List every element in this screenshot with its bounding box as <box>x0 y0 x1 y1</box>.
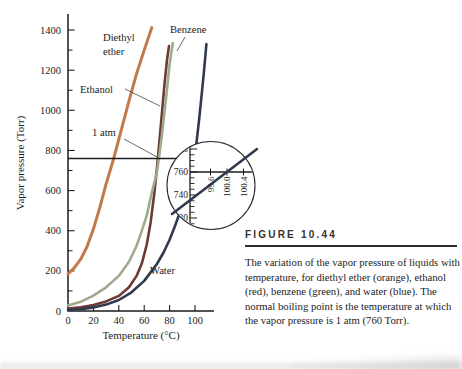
inset-x-tick-label: 100.4 <box>239 176 249 197</box>
inset-x-tick-label: 100.0 <box>222 176 232 197</box>
one-atm-leader-line <box>124 139 157 157</box>
x-axis-title: Temperature (°C) <box>102 329 180 342</box>
x-tick-label: 60 <box>139 315 150 326</box>
x-tick-label: 40 <box>114 315 125 326</box>
label-ethanol: Ethanol <box>80 84 113 95</box>
y-tick-label: 200 <box>45 265 61 276</box>
label-benzene-leader-line <box>177 37 185 51</box>
y-axis-title: Vapor pressure (Torr) <box>14 115 27 210</box>
inset-y-tick-label: 740 <box>174 190 189 200</box>
figure-caption-text: The variation of the vapor pressure of l… <box>245 255 461 328</box>
label-water: Water <box>150 265 175 276</box>
y-tick-label: 400 <box>45 225 61 236</box>
y-tick-label: 600 <box>45 185 61 196</box>
x-tick-label: 80 <box>164 315 175 326</box>
y-tick-label: 0 <box>56 306 61 317</box>
label-benzene: Benzene <box>170 24 207 35</box>
figure-caption-block: FIGURE 10.44 The variation of the vapor … <box>245 229 461 328</box>
curve-water <box>68 216 179 310</box>
caption-divider-rule <box>245 245 457 247</box>
textbook-figure-page: 0200400600800100012001400020406080100Tem… <box>0 0 462 369</box>
label-diethyl-ether: Diethyl <box>103 32 135 43</box>
y-tick-label: 1200 <box>40 65 61 76</box>
figure-number-label: FIGURE 10.44 <box>245 229 461 240</box>
y-tick-label: 1000 <box>40 105 61 116</box>
one-atm-label: 1 atm <box>92 127 117 138</box>
x-tick-label: 20 <box>88 315 99 326</box>
inset-y-tick-label: 760 <box>174 167 189 177</box>
curve-water-upper-segment <box>196 44 206 144</box>
y-tick-label: 800 <box>45 145 61 156</box>
label-diethyl-ether: ether <box>103 46 125 57</box>
x-tick-label: 0 <box>65 315 70 326</box>
x-tick-label: 100 <box>187 315 203 326</box>
y-tick-label: 1400 <box>40 25 61 36</box>
